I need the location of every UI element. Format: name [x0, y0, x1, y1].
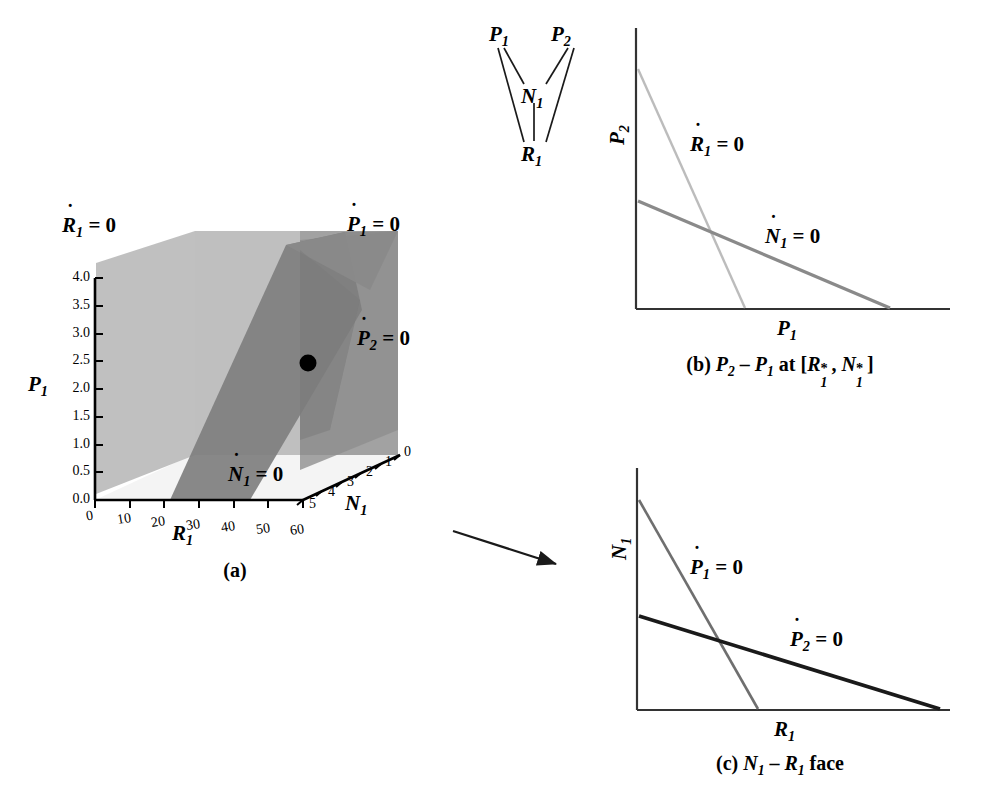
tick-r1-10: 10: [116, 510, 132, 528]
tick-p1-3.0: 3.0: [52, 325, 90, 341]
tick-r1-50: 50: [255, 520, 271, 538]
inset-node-P1: P1: [489, 22, 509, 50]
tick-p1-3.5: 3.5: [52, 297, 90, 313]
tick-n1-4: 4: [328, 484, 335, 500]
tick-r1-20: 20: [150, 513, 166, 531]
axis-subscript: 1: [790, 327, 797, 343]
axis-subscript: 1: [618, 538, 634, 545]
axis-symbol: R: [774, 717, 788, 741]
axis-symbol: P: [605, 132, 629, 145]
panel-b-line-label-R1dot: ˙ R1 = 0: [690, 132, 744, 160]
panel-b-line-label-N1dot: ˙ N1 = 0: [765, 224, 820, 252]
panel-a-label-P2dot: ˙ P2 = 0: [357, 326, 410, 354]
caption-at: at [: [774, 353, 807, 375]
panel-b-xaxis-name: P1: [777, 316, 797, 344]
dot-accent: ˙: [769, 212, 776, 235]
symbol: N: [521, 84, 536, 108]
panel-a-label-N1dot: ˙ N1 = 0: [228, 462, 283, 490]
axis-symbol: N: [345, 491, 360, 515]
caption-N: N: [842, 353, 856, 375]
tick-r1-60: 60: [289, 521, 305, 539]
subscript: 2: [370, 337, 377, 353]
axis-symbol: P: [28, 372, 41, 396]
panel-b-line-R1dot: [638, 69, 745, 308]
tick-p1-0.5: 0.5: [52, 463, 90, 479]
subscript: 1: [360, 223, 367, 239]
inset-node-P2: P2: [551, 22, 571, 50]
figure-root: ˙ R1 = 0 ˙ P1 = 0 ˙ P2 = 0 ˙ N1 = 0 P1 R…: [0, 0, 982, 808]
caption-R: R: [807, 353, 820, 375]
axis-subscript: 1: [186, 532, 193, 548]
subscript: 2: [564, 33, 571, 49]
subscript: 1: [502, 33, 509, 49]
axis-subscript: 1: [360, 502, 367, 518]
equals-zero: = 0: [250, 462, 283, 486]
tick-n1-5: 5: [309, 496, 316, 512]
equilibrium-dot: [300, 355, 317, 372]
dot-accent: ˙: [66, 201, 73, 224]
panel-a-to-c-arrow: [453, 531, 556, 564]
panel-c-xaxis-name: R1: [774, 717, 795, 745]
axis-symbol: N: [607, 545, 631, 560]
equals-zero: = 0: [710, 555, 743, 579]
subscript: 1: [703, 566, 710, 582]
figure-canvas: [0, 0, 982, 808]
axis-symbol: P: [777, 316, 790, 340]
caption-P: P: [716, 353, 728, 375]
subscript: 1: [535, 153, 542, 169]
panel-b-caption: (b) P2 – P1 at [R 1 * , N 1 * ]: [600, 353, 960, 380]
panel-a-label-R1dot: ˙ R1 = 0: [62, 213, 116, 241]
axis-subscript: 1: [788, 728, 795, 744]
inset-node-N1: N1: [521, 84, 543, 112]
caption-P-sub: 2: [728, 364, 735, 379]
dot-accent: ˙: [232, 450, 239, 473]
panel-a-zaxis-name: N1: [345, 491, 367, 519]
equals-zero: = 0: [787, 224, 820, 248]
caption-face: face: [805, 752, 844, 774]
tick-p1-2.0: 2.0: [52, 380, 90, 396]
caption-comma: ,: [832, 353, 842, 375]
tick-n1-2: 2: [366, 464, 373, 480]
subscript: 2: [803, 638, 810, 654]
tick-p1-2.5: 2.5: [52, 352, 90, 368]
axis-subscript: 1: [41, 383, 48, 399]
tick-p1-1.0: 1.0: [52, 436, 90, 452]
caption-R-sup: *: [821, 360, 828, 377]
axis-subscript: 2: [616, 125, 632, 132]
caption-N: N: [743, 752, 757, 774]
caption-P2: P: [755, 353, 767, 375]
panel-b-line-N1dot: [638, 201, 890, 308]
caption-close: ]: [867, 353, 874, 375]
plane-R1dot: [96, 231, 195, 494]
panel-b-yaxis-name: P2: [605, 125, 633, 145]
caption-N-sup: *: [856, 360, 863, 377]
caption-minus: –: [764, 752, 784, 774]
dot-accent: ˙: [792, 615, 799, 638]
equals-zero: = 0: [810, 627, 843, 651]
tick-p1-4.0: 4.0: [52, 269, 90, 285]
tick-p1-0.0: 0.0: [52, 491, 90, 507]
caption-R: R: [784, 752, 797, 774]
panel-a-label-P1dot: ˙ P1 = 0: [347, 212, 400, 240]
tick-n1-0: 0: [404, 444, 411, 460]
panel-c: [637, 468, 950, 710]
panel-c-yaxis-name: N1: [607, 538, 635, 560]
tick-n1-3: 3: [347, 474, 354, 490]
subscript: 1: [536, 95, 543, 111]
dot-accent: ˙: [692, 543, 699, 566]
equals-zero: = 0: [83, 213, 116, 237]
caption-P2-sub: 1: [767, 364, 774, 379]
panel-c-caption: (c) N1 – R1 face: [620, 752, 940, 779]
tick-p1-1.5: 1.5: [52, 408, 90, 424]
dot-accent: ˙: [693, 120, 700, 143]
caption-prefix: (c): [716, 752, 743, 774]
symbol: P: [489, 22, 502, 46]
tick-n1-1: 1: [385, 454, 392, 470]
dot-accent: ˙: [349, 200, 356, 223]
axis-symbol: R: [172, 521, 186, 545]
dot-accent: ˙: [359, 314, 366, 337]
caption-prefix: (b): [686, 353, 715, 375]
tick-r1-40: 40: [220, 518, 236, 536]
equals-zero: = 0: [377, 326, 410, 350]
tick-r1-30: 30: [185, 516, 201, 534]
